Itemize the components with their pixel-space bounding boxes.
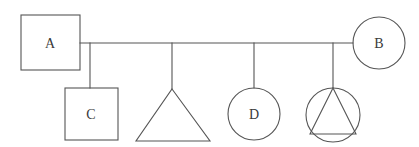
node-label-a: A <box>45 36 56 51</box>
child-node-c: C <box>65 88 118 140</box>
node-label-c: C <box>86 107 95 122</box>
triangle-shape <box>136 89 210 141</box>
parent-node-a: A <box>21 15 80 70</box>
node-label-b: B <box>374 36 383 51</box>
child-node-triangle-in-circle <box>306 88 360 142</box>
connector-lines <box>80 43 353 89</box>
node-label-d: D <box>249 107 259 122</box>
child-node-d: D <box>228 88 280 140</box>
child-node-triangle <box>136 89 210 141</box>
triangle-shape-inner <box>310 88 356 134</box>
parent-node-b: B <box>353 17 405 69</box>
pedigree-diagram: A B C D <box>0 0 419 147</box>
